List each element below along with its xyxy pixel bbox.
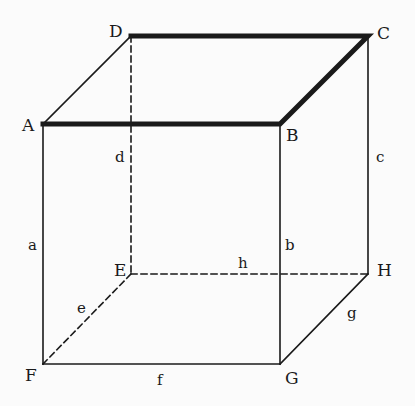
vertex-label-a: A <box>21 115 35 135</box>
vertex-label-g: G <box>285 368 299 388</box>
edge-label-b: b <box>285 236 295 254</box>
edge-label-c: c <box>376 148 384 166</box>
edge-label-e: e <box>77 299 86 317</box>
edge-label-d: d <box>115 148 125 166</box>
edge-e-hidden <box>43 274 131 364</box>
vertex-labels: A B C D E F G H <box>21 21 392 388</box>
edge-label-a: a <box>28 236 37 254</box>
cube-diagram: A B C D E F G H a b c d e f g h <box>0 0 415 406</box>
vertex-label-c: C <box>377 23 390 43</box>
edge-label-f: f <box>157 371 164 389</box>
vertex-label-h: H <box>377 260 392 280</box>
vertex-label-f: F <box>25 365 37 385</box>
edge-ad <box>43 36 131 124</box>
vertex-label-b: B <box>286 125 299 145</box>
thick-path-a-b-c-d <box>43 36 368 124</box>
edge-label-h: h <box>238 254 248 272</box>
cube-svg: A B C D E F G H a b c d e f g h <box>0 0 415 406</box>
edge-labels: a b c d e f g h <box>28 148 384 389</box>
thick-edges <box>43 36 368 124</box>
vertex-label-d: D <box>109 21 123 41</box>
edge-label-g: g <box>347 304 357 322</box>
vertex-label-e: E <box>114 260 126 280</box>
